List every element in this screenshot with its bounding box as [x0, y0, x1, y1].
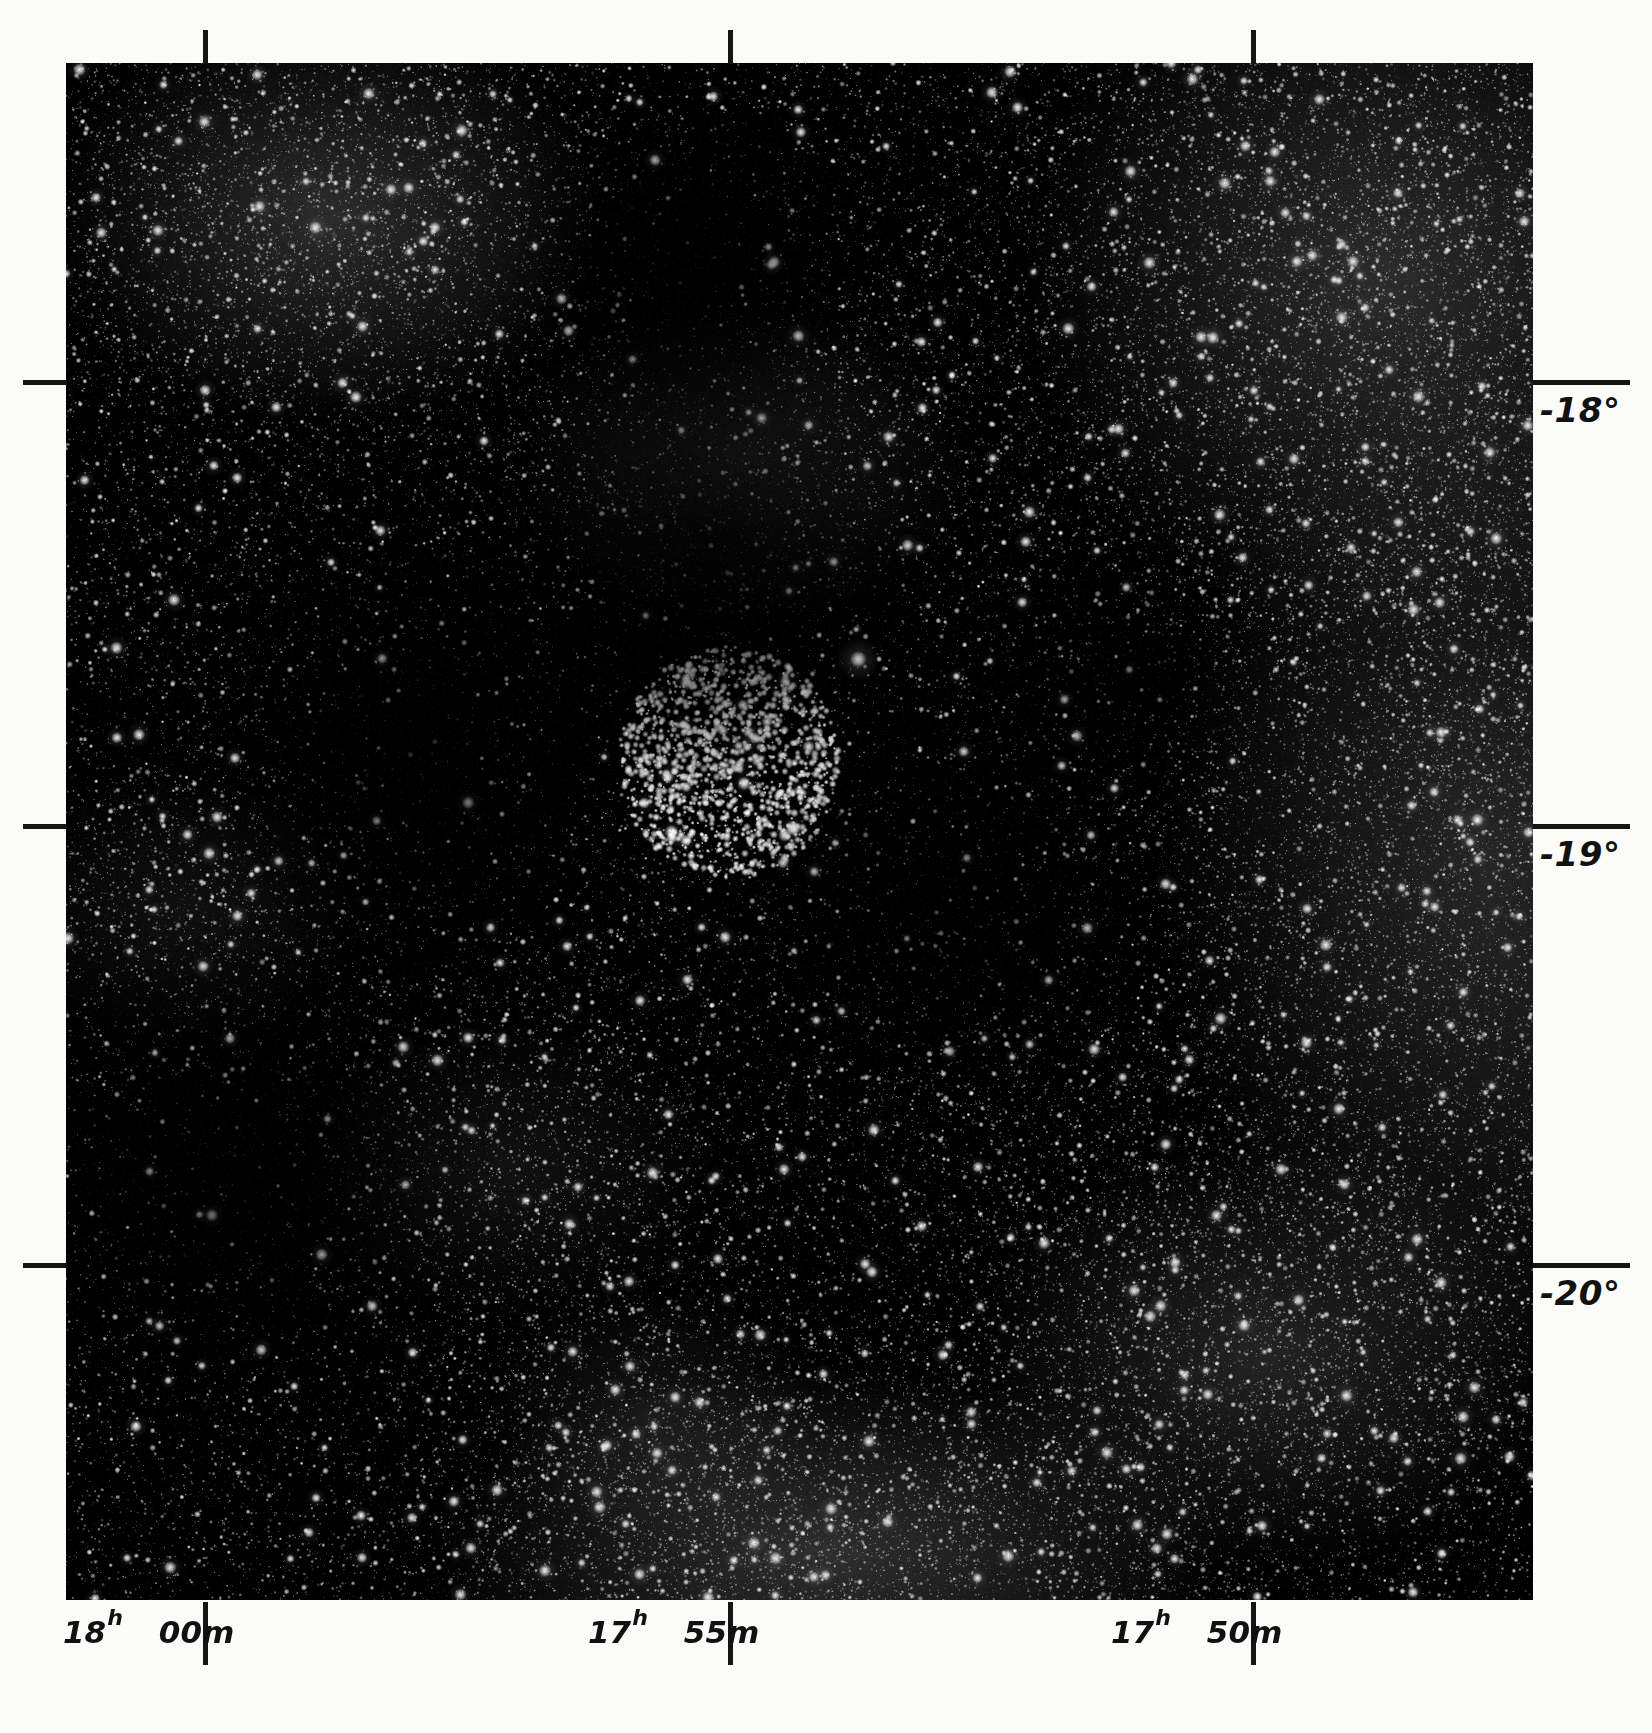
dec-label--20: -20°	[1540, 1273, 1620, 1313]
sky-image-plate	[66, 63, 1533, 1600]
ra-hours-value-2: 17h	[588, 1612, 648, 1650]
dec-tick-left-3	[23, 1263, 67, 1268]
ra-minutes-unit-2: m	[727, 1614, 759, 1650]
ra-label-17h-50m: 17h 50m	[1111, 1612, 1282, 1650]
ra-tick-top-3	[1251, 30, 1256, 64]
ra-minutes-value-2: 55m	[684, 1614, 759, 1650]
ra-tick-top-1	[203, 30, 208, 64]
ra-label-17h-55m: 17h 55m	[588, 1612, 759, 1650]
ra-hours-unit-1: h	[107, 1605, 123, 1630]
ra-tick-top-2	[728, 30, 733, 64]
dec-tick-left-1	[23, 380, 67, 385]
dec-tick-right-1	[1533, 380, 1630, 385]
ra-hours-unit-3: h	[1155, 1605, 1171, 1630]
ra-minutes-value-3: 50m	[1207, 1614, 1282, 1650]
ra-minutes-value-1: 00m	[159, 1614, 234, 1650]
dec-label--19: -19°	[1540, 834, 1620, 874]
dec-label--18: -18°	[1540, 390, 1620, 430]
ra-minutes-unit-3: m	[1250, 1614, 1282, 1650]
dec-tick-left-2	[23, 824, 67, 829]
ra-hours-value-3: 17h	[1111, 1612, 1171, 1650]
ra-label-18h-00m: 18h 00m	[63, 1612, 234, 1650]
ra-hours-value-1: 18h	[63, 1612, 123, 1650]
ra-minutes-unit-1: m	[202, 1614, 234, 1650]
photographic-grain-canvas	[66, 63, 1533, 1600]
dec-tick-right-2	[1533, 824, 1630, 829]
dec-tick-right-3	[1533, 1263, 1630, 1268]
ra-hours-unit-2: h	[632, 1605, 648, 1630]
